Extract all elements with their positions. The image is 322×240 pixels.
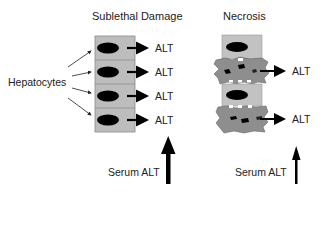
- alt-release-label: ALT: [155, 42, 173, 54]
- alt-release-label: ALT: [155, 90, 173, 102]
- alt-release-label: ALT: [155, 114, 173, 126]
- nucleus-icon: [97, 91, 119, 102]
- serum-alt-small-arrow-icon: [292, 146, 301, 184]
- serum-alt-label-right: Serum ALT: [235, 166, 287, 178]
- nucleus-icon: [97, 43, 119, 54]
- serum-alt-label-left: Serum ALT: [108, 166, 160, 178]
- nucleus-icon: [226, 42, 248, 52]
- serum-alt-large-arrow-icon: [161, 136, 176, 184]
- alt-release-label: ALT: [155, 66, 173, 78]
- sublethal-hepatocyte-column: [95, 36, 135, 132]
- nucleus-icon: [97, 115, 119, 126]
- nucleus-icon: [226, 90, 248, 100]
- alt-release-label: ALT: [292, 65, 310, 77]
- alt-release-label: ALT: [292, 113, 310, 125]
- hepatocyte-pointer-arrows: [68, 51, 91, 115]
- nucleus-icon: [97, 67, 119, 78]
